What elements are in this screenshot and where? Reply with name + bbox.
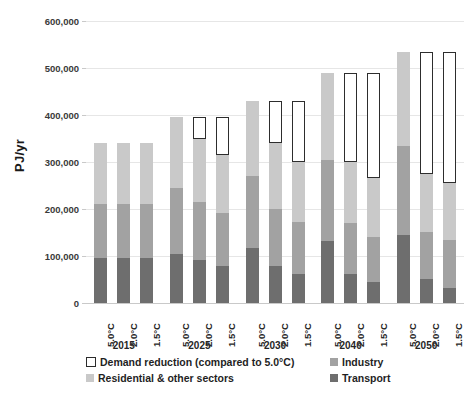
bar-segment-demand-reduction bbox=[269, 101, 282, 143]
bar-segment-transport bbox=[269, 266, 282, 303]
chart-legend: Demand reduction (compared to 5.0°C) Res… bbox=[86, 356, 458, 390]
bar-segment-transport bbox=[321, 241, 334, 304]
bar-segment-industry bbox=[246, 176, 259, 247]
bar-segment-residential bbox=[420, 174, 433, 232]
x-axis-group-label-2030: 2030 bbox=[248, 340, 302, 351]
bar-2040-5_0°C[interactable] bbox=[321, 21, 334, 303]
bar-segment-industry bbox=[367, 237, 380, 282]
bar-2015-2_0°C[interactable] bbox=[117, 21, 130, 303]
y-axis-title: PJ/yr bbox=[12, 121, 27, 191]
bar-segment-industry bbox=[344, 223, 357, 274]
bar-segment-residential bbox=[140, 143, 153, 204]
bar-2025-2_0°C[interactable] bbox=[193, 21, 206, 303]
bar-2025-5_0°C[interactable] bbox=[170, 21, 183, 303]
legend-item-transport: Transport bbox=[330, 372, 390, 384]
bar-segment-transport bbox=[292, 274, 305, 303]
bar-2025-1_5°C[interactable] bbox=[216, 21, 229, 303]
bar-segment-residential bbox=[269, 143, 282, 209]
x-axis-group-label-2015: 2015 bbox=[97, 340, 151, 351]
bar-segment-demand-reduction bbox=[216, 117, 229, 155]
bar-segment-residential bbox=[216, 155, 229, 213]
legend-item-demand-reduction: Demand reduction (compared to 5.0°C) bbox=[86, 356, 294, 368]
bar-segment-demand-reduction bbox=[344, 73, 357, 162]
bar-segment-transport bbox=[246, 248, 259, 303]
x-axis-scenario-labels: 5.0°C2.0°C1.5°C5.0°C2.0°C1.5°C5.0°C2.0°C… bbox=[86, 305, 464, 345]
bar-segment-transport bbox=[193, 260, 206, 303]
legend-swatch-residential bbox=[86, 374, 94, 382]
bar-segment-industry bbox=[94, 204, 107, 258]
y-axis-tick bbox=[82, 21, 86, 22]
bar-2050-5_0°C[interactable] bbox=[397, 21, 410, 303]
bar-segment-transport bbox=[216, 266, 229, 303]
bar-2050-2_0°C[interactable] bbox=[420, 21, 433, 303]
y-axis-tick-label: 200,000 bbox=[45, 204, 79, 215]
bar-segment-transport bbox=[94, 258, 107, 303]
legend-swatch-transport bbox=[330, 374, 338, 382]
x-axis-group-label-2040: 2040 bbox=[324, 340, 378, 351]
y-axis-tick-label: 600,000 bbox=[45, 16, 79, 27]
bar-segment-industry bbox=[269, 209, 282, 266]
bar-segment-industry bbox=[397, 146, 410, 235]
bar-segment-demand-reduction bbox=[420, 52, 433, 174]
bar-segment-transport bbox=[397, 235, 410, 303]
x-axis-group-label-2050: 2050 bbox=[399, 340, 453, 351]
bar-segment-transport bbox=[420, 279, 433, 303]
bar-2040-1_5°C[interactable] bbox=[367, 21, 380, 303]
y-axis-tick-label: 100,000 bbox=[45, 251, 79, 262]
legend-swatch-demand-reduction bbox=[86, 357, 96, 367]
bar-segment-demand-reduction bbox=[193, 117, 206, 138]
bar-segment-industry bbox=[140, 204, 153, 258]
bar-segment-transport bbox=[140, 258, 153, 303]
bar-segment-transport bbox=[344, 274, 357, 303]
chart-container: PJ/yr 0100,000200,000300,000400,000500,0… bbox=[0, 0, 472, 394]
bar-2015-1_5°C[interactable] bbox=[140, 21, 153, 303]
bar-segment-demand-reduction bbox=[443, 52, 456, 184]
bar-segment-residential bbox=[443, 183, 456, 239]
legend-label-demand-reduction: Demand reduction (compared to 5.0°C) bbox=[100, 356, 294, 368]
bar-segment-industry bbox=[193, 202, 206, 259]
bar-segment-residential bbox=[117, 143, 130, 204]
bar-segment-industry bbox=[292, 222, 305, 274]
y-axis-tick bbox=[82, 303, 86, 304]
y-axis-tick-label: 0 bbox=[74, 298, 79, 309]
x-axis-line bbox=[86, 303, 464, 304]
bar-segment-demand-reduction bbox=[292, 101, 305, 162]
bar-segment-transport bbox=[170, 254, 183, 303]
y-axis-tick bbox=[82, 209, 86, 210]
y-axis-tick bbox=[82, 68, 86, 69]
bar-segment-residential bbox=[94, 143, 107, 204]
bar-segment-industry bbox=[420, 232, 433, 279]
legend-label-industry: Industry bbox=[342, 356, 383, 368]
bar-segment-residential bbox=[367, 178, 380, 237]
legend-swatch-industry bbox=[330, 358, 338, 366]
bar-2050-1_5°C[interactable] bbox=[443, 21, 456, 303]
bar-segment-industry bbox=[321, 160, 334, 241]
bar-2015-5_0°C[interactable] bbox=[94, 21, 107, 303]
bar-segment-demand-reduction bbox=[367, 73, 380, 179]
legend-label-transport: Transport bbox=[342, 372, 390, 384]
y-axis-tick-label: 500,000 bbox=[45, 63, 79, 74]
bar-segment-residential bbox=[344, 162, 357, 223]
bar-segment-residential bbox=[193, 139, 206, 203]
legend-label-residential: Residential & other sectors bbox=[98, 372, 234, 384]
bar-segment-residential bbox=[321, 73, 334, 160]
x-axis-year-labels: 20152025203020402050 bbox=[86, 340, 464, 356]
bar-segment-industry bbox=[443, 240, 456, 288]
bar-2030-2_0°C[interactable] bbox=[269, 21, 282, 303]
y-axis-tick-label: 400,000 bbox=[45, 110, 79, 121]
y-axis-tick bbox=[82, 162, 86, 163]
bar-2030-1_5°C[interactable] bbox=[292, 21, 305, 303]
bar-segment-industry bbox=[117, 204, 130, 258]
bar-segment-industry bbox=[170, 188, 183, 254]
bar-2030-5_0°C[interactable] bbox=[246, 21, 259, 303]
bar-segment-residential bbox=[397, 52, 410, 146]
bar-segment-residential bbox=[246, 101, 259, 176]
bar-2040-2_0°C[interactable] bbox=[344, 21, 357, 303]
legend-item-industry: Industry bbox=[330, 356, 383, 368]
bar-segment-industry bbox=[216, 213, 229, 266]
y-axis-tick bbox=[82, 115, 86, 116]
bar-segment-transport bbox=[443, 288, 456, 303]
bar-segment-transport bbox=[367, 282, 380, 303]
bar-segment-residential bbox=[170, 117, 183, 188]
plot-area: 0100,000200,000300,000400,000500,000600,… bbox=[86, 21, 464, 303]
